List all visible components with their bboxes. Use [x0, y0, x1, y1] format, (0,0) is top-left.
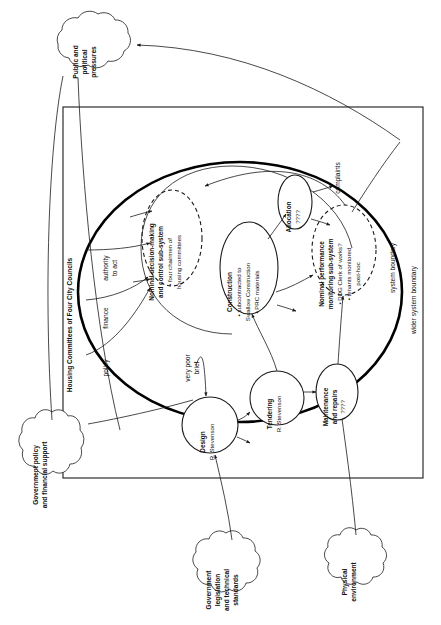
cloud-line: Public and	[72, 45, 79, 78]
node-line: Maintenance	[322, 387, 329, 426]
node-line: Swallow Construction	[244, 263, 251, 321]
node-line: Nominal performance	[318, 241, 326, 307]
cloud-line: Government	[205, 570, 212, 610]
edge-label-very-poor: very poor	[184, 353, 192, 381]
cloud-line: environment	[350, 561, 357, 601]
cloud-line: legislation	[214, 574, 222, 607]
node-line: • PRC materials	[253, 270, 260, 313]
cloud-line: political	[81, 49, 89, 74]
cloud-line: and technical	[223, 569, 230, 611]
node-line: Design	[199, 431, 207, 452]
node-line: • four chairmen of	[166, 238, 173, 286]
node-line: Construction	[226, 272, 233, 312]
cloud-line: Physical	[341, 568, 349, 595]
node-line: housing committees	[175, 235, 182, 289]
cloud-line: and financial support	[41, 441, 49, 508]
node-line: R. Stevenson	[275, 396, 282, 433]
cloud-line: Government policy	[32, 445, 40, 505]
node-line: Nominal decision-making	[148, 223, 156, 301]
system-boundary-label: system boundary	[389, 242, 397, 293]
systems-diagram-svg: wider system boundary system boundary Ho…	[0, 0, 441, 625]
edge-label-policy: policy	[102, 359, 110, 377]
node-line: Tendering	[266, 399, 274, 430]
node-line: • tenants monitored	[345, 248, 352, 301]
edge-label-brief: brief	[193, 361, 200, 374]
diagram-canvas: wider system boundary system boundary Ho…	[0, 0, 441, 625]
edge-label-finance: finance	[102, 307, 109, 329]
node-line: • subcontracted to	[235, 267, 242, 316]
cloud-line: standards	[232, 574, 239, 606]
housing-committees-label: Housing Committees of Four City Councils	[66, 257, 74, 392]
node-line: and control sub-system	[157, 226, 165, 298]
edge-label-complaints: complaints	[334, 162, 342, 194]
edge-label-authority: authority	[102, 255, 110, 281]
node-line: • DDG Clerk of works?	[336, 243, 343, 305]
node-line: ????	[294, 210, 301, 224]
cloud-line: pressures	[90, 46, 98, 78]
node-line: and repairs	[331, 389, 339, 424]
node-line: post-hoc	[354, 262, 361, 285]
node-line: ????	[339, 400, 346, 414]
edge-label-authority-2: to act	[111, 260, 118, 276]
wider-system-boundary-label: wider system boundary	[410, 265, 418, 335]
node-line: monitoring sub-system	[327, 238, 335, 309]
node-line: Allocation	[285, 201, 292, 232]
node-line: R. Stevenson	[208, 424, 215, 461]
